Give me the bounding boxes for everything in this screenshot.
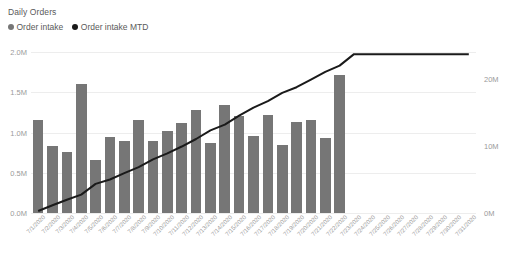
chart-card: Daily Orders Order intake Order intake M… (0, 0, 521, 254)
y-axis-left-tick: 1.5M (10, 88, 27, 97)
y-axis-left-tick: 0.0M (10, 209, 27, 218)
y-axis-right: 0M10M20M (484, 0, 521, 254)
line-series-order-intake-mtd (31, 42, 476, 213)
y-axis-left-tick: 0.5M (10, 168, 27, 177)
y-axis-right-tick: 10M (484, 141, 499, 150)
chart-legend: Order intake Order intake MTD (8, 22, 148, 32)
y-axis-left-tick: 2.0M (10, 48, 27, 57)
y-axis-right-tick: 20M (484, 74, 499, 83)
plot-area (31, 52, 476, 213)
legend-marker-order-intake-mtd (72, 24, 78, 30)
y-axis-left-tick: 1.0M (10, 128, 27, 137)
y-axis-left: 0.0M0.5M1.0M1.5M2.0M (0, 0, 27, 254)
mtd-line-path (38, 54, 469, 211)
legend-label-order-intake-mtd: Order intake MTD (81, 22, 149, 32)
x-axis: 7/1/20207/2/20207/3/20207/4/20207/5/2020… (31, 214, 476, 254)
legend-item-order-intake-mtd[interactable]: Order intake MTD (72, 22, 148, 32)
